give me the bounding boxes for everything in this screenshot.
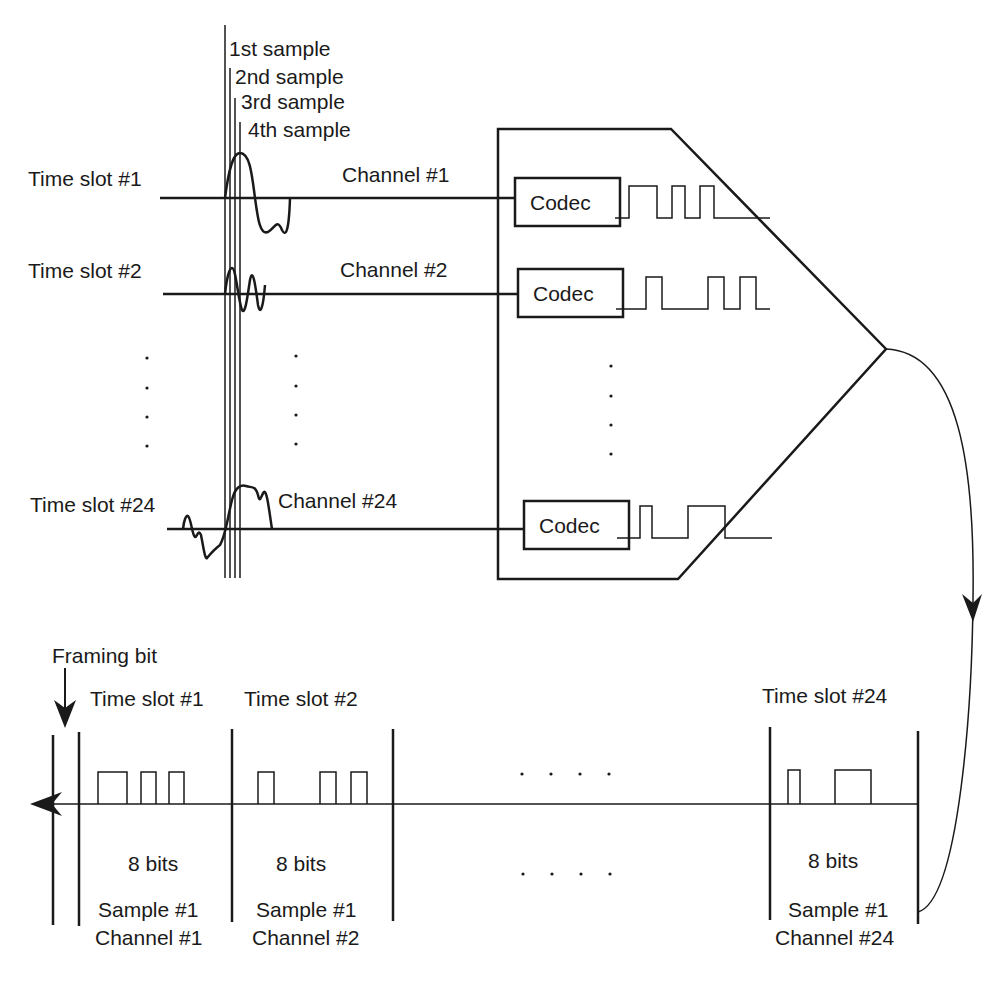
ellipsis-dots — [145, 354, 612, 455]
mux-output-arrow — [886, 349, 973, 912]
frame-bits-slot-1 — [98, 772, 184, 804]
frame-bits-2: 8 bits — [276, 852, 326, 875]
frame-sample-1: Sample #1 — [98, 898, 198, 921]
pcm-wave-24 — [617, 506, 772, 538]
sample-label-3: 3rd sample — [241, 90, 345, 113]
pcm-wave-1 — [615, 186, 770, 218]
analog-wave-2 — [225, 268, 265, 311]
frame-bits-1: 8 bits — [128, 852, 178, 875]
pcm-wave-2 — [616, 277, 770, 309]
frame-channel-2: Channel #2 — [252, 926, 359, 949]
frame-bits-slot-24 — [788, 770, 871, 804]
frame-time-slot-24: Time slot #24 — [762, 684, 888, 707]
input-time-slot-1: Time slot #1 — [28, 167, 142, 190]
sample-label-2: 2nd sample — [235, 65, 344, 88]
codec-label-24: Codec — [539, 514, 600, 537]
frame-channel-1: Channel #1 — [95, 926, 202, 949]
framing-bit-label: Framing bit — [52, 644, 157, 667]
input-time-slot-24: Time slot #24 — [30, 493, 156, 516]
input-channel-1: Channel #1 — [342, 163, 449, 186]
tdm-diagram: 1st sample 2nd sample 3rd sample 4th sam… — [0, 0, 1002, 981]
sample-label-4: 4th sample — [248, 118, 351, 141]
frame-bits-slot-2 — [258, 772, 367, 804]
codec-label-2: Codec — [533, 282, 594, 305]
arrowhead-down-icon — [962, 594, 982, 622]
frame-ellipsis-dots — [520, 772, 611, 875]
frame-channel-24: Channel #24 — [775, 926, 894, 949]
codec-label-1: Codec — [530, 191, 591, 214]
analog-wave-24 — [183, 486, 272, 559]
input-channel-24: Channel #24 — [278, 489, 397, 512]
frame-time-slot-1: Time slot #1 — [90, 687, 204, 710]
slot-dividers — [53, 727, 918, 926]
input-channel-2: Channel #2 — [340, 258, 447, 281]
sample-label-1: 1st sample — [229, 37, 331, 60]
frame-sample-2: Sample #1 — [256, 898, 356, 921]
frame-sample-24: Sample #1 — [788, 898, 888, 921]
input-time-slot-2: Time slot #2 — [28, 259, 142, 282]
frame-time-slot-2: Time slot #2 — [244, 687, 358, 710]
frame-bits-24: 8 bits — [808, 849, 858, 872]
